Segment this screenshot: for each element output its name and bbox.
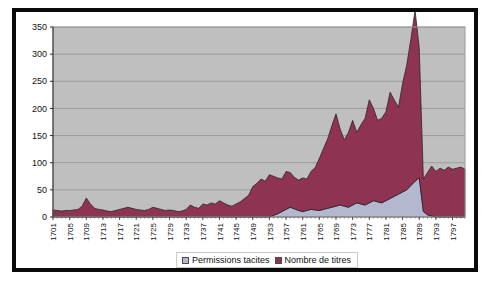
x-axis-tick-label: 1741: [216, 222, 225, 240]
y-axis-tick-label: 200: [32, 104, 47, 114]
x-axis-tick-label: 1725: [149, 222, 158, 240]
y-axis-tick-label: 100: [32, 158, 47, 168]
legend-swatch-permissions-tacites: [182, 257, 189, 264]
x-axis-tick-label: 1777: [365, 222, 374, 240]
x-axis-tick-label: 1797: [449, 222, 458, 240]
x-axis-tick-label: 1737: [199, 222, 208, 240]
y-axis-tick-label: 300: [32, 49, 47, 59]
x-axis-tick-label: 1705: [66, 222, 75, 240]
area-chart: 0501001502002503003501701170517091713171…: [16, 12, 474, 268]
legend-label-nombre-de-titres: Nombre de titres: [285, 255, 352, 265]
y-axis-tick-label: 50: [37, 185, 47, 195]
x-axis-tick-label: 1753: [266, 222, 275, 240]
x-axis-tick-label: 1745: [232, 222, 241, 240]
y-axis-tick-label: 0: [42, 212, 47, 222]
legend-item-permissions-tacites: Permissions tacites: [182, 255, 270, 265]
x-axis-tick-label: 1721: [132, 222, 141, 240]
x-axis-tick-label: 1701: [49, 222, 58, 240]
x-axis-tick-label: 1733: [182, 222, 191, 240]
legend-item-nombre-de-titres: Nombre de titres: [275, 255, 352, 265]
chart-legend: Permissions tacites Nombre de titres: [176, 252, 358, 268]
caption-strip: [0, 288, 494, 296]
y-axis-tick-label: 250: [32, 76, 47, 86]
x-axis-tick-label: 1749: [249, 222, 258, 240]
x-axis-tick-label: 1717: [116, 222, 125, 240]
x-axis-tick-label: 1729: [166, 222, 175, 240]
x-axis-tick-label: 1793: [432, 222, 441, 240]
x-axis-tick-label: 1769: [332, 222, 341, 240]
x-axis-tick-label: 1709: [82, 222, 91, 240]
x-axis-tick-label: 1757: [282, 222, 291, 240]
x-axis-tick-label: 1773: [349, 222, 358, 240]
x-axis-tick-label: 1713: [99, 222, 108, 240]
x-axis-tick-label: 1765: [316, 222, 325, 240]
x-axis-tick-label: 1781: [382, 222, 391, 240]
x-axis-tick-label: 1761: [299, 222, 308, 240]
chart-frame: 0501001502002503003501701170517091713171…: [12, 8, 478, 272]
x-axis-tick-label: 1785: [399, 222, 408, 240]
y-axis-tick-label: 350: [32, 22, 47, 32]
figure-container: 0501001502002503003501701170517091713171…: [0, 0, 494, 296]
legend-label-permissions-tacites: Permissions tacites: [192, 255, 270, 265]
x-axis-tick-label: 1789: [415, 222, 424, 240]
legend-swatch-nombre-de-titres: [275, 257, 282, 264]
y-axis-tick-label: 150: [32, 131, 47, 141]
